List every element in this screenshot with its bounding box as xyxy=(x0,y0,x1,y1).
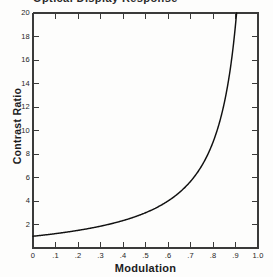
y-axis-title: Contrast Ratio xyxy=(11,76,23,176)
x-tick-label-0-3: .3 xyxy=(91,251,111,260)
x-tick-label-0-8: .8 xyxy=(203,251,223,260)
y-tick-label-2: 2 xyxy=(8,220,30,229)
y-tick-label-16: 16 xyxy=(8,55,30,64)
x-tick-label-1-0: 1.0 xyxy=(248,251,268,260)
x-tick-label-0-2: .2 xyxy=(68,251,88,260)
x-tick-label-0-5: .5 xyxy=(136,251,156,260)
figure-panel: Optical Display Response xyxy=(0,0,273,277)
y-tick-label-20: 20 xyxy=(8,8,30,17)
x-tick-label-0-7: .7 xyxy=(181,251,201,260)
x-tick-label-0-4: .4 xyxy=(113,251,133,260)
bottom-axis-ticks xyxy=(56,242,236,248)
contrast-ratio-curve xyxy=(33,13,237,236)
plot-area xyxy=(0,0,273,277)
x-tick-label-0-6: .6 xyxy=(158,251,178,260)
y-tick-label-18: 18 xyxy=(8,32,30,41)
x-tick-label-0-1: .1 xyxy=(46,251,66,260)
left-axis-ticks xyxy=(33,37,39,225)
x-tick-label-0-9: .9 xyxy=(226,251,246,260)
top-axis-ticks xyxy=(56,13,236,19)
right-axis-ticks xyxy=(252,37,258,225)
x-tick-label-0: 0 xyxy=(23,251,43,260)
x-axis-title: Modulation xyxy=(33,262,258,274)
y-tick-label-4: 4 xyxy=(8,196,30,205)
